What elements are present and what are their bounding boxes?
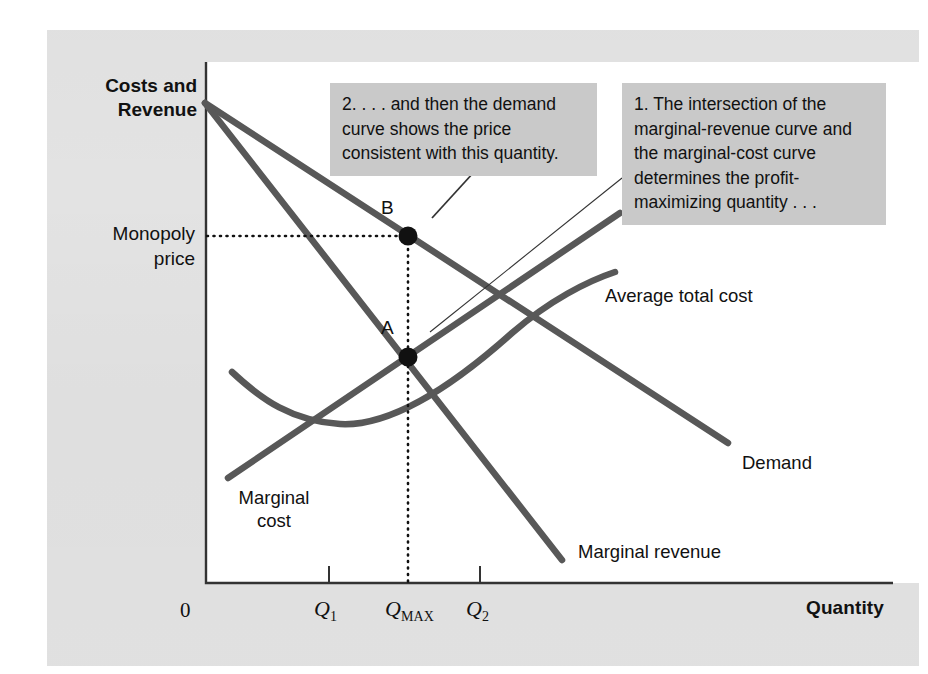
tick-label-qmax-sub: MAX xyxy=(401,609,434,624)
tick-label-q2: Q2 xyxy=(466,596,489,625)
tick-label-q1: Q1 xyxy=(314,596,337,625)
point-b-marker xyxy=(399,227,418,246)
y-axis-title: Costs and Revenue xyxy=(62,74,197,123)
x-axis-title: Quantity xyxy=(806,596,884,619)
point-b-label: B xyxy=(381,196,394,219)
tick-label-q2-sub: 2 xyxy=(482,609,489,624)
callout-1: 1. The intersection of the marginal-reve… xyxy=(622,83,886,225)
point-a-marker xyxy=(399,348,418,367)
marginal-cost-label: Marginal cost xyxy=(220,487,328,532)
origin-tick-label: 0 xyxy=(180,598,191,624)
callout-2-leader-line xyxy=(432,172,474,218)
callout-2: 2. . . . and then the demand curve shows… xyxy=(330,83,597,176)
point-a-label: A xyxy=(381,316,394,339)
tick-label-q2-base: Q xyxy=(466,596,482,621)
average-total-cost-label: Average total cost xyxy=(605,285,753,308)
demand-label: Demand xyxy=(742,452,812,475)
marginal-cost-curve xyxy=(228,213,620,478)
tick-label-q1-sub: 1 xyxy=(330,609,337,624)
tick-label-qmax-base: Q xyxy=(385,596,401,621)
tick-label-q1-base: Q xyxy=(314,596,330,621)
tick-label-qmax: QMAX xyxy=(385,596,434,625)
monopoly-price-label: Monopoly price xyxy=(45,222,195,271)
marginal-revenue-label: Marginal revenue xyxy=(578,541,721,564)
figure-container: Costs and Revenue Quantity 0 Q1 QMAX Q2 … xyxy=(0,0,928,674)
